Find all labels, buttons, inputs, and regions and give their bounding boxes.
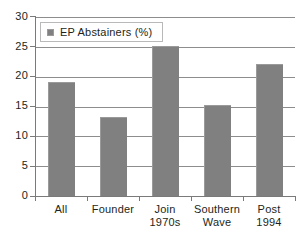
x-axis-tick-mark-5	[295, 196, 296, 201]
x-axis-line	[35, 196, 295, 197]
legend-swatch-ep-abstainers	[47, 29, 54, 36]
y-axis-tick-label-0: 0	[4, 190, 28, 201]
x-axis-label-founder-line1: Founder	[87, 203, 139, 216]
bar-southern-wave	[204, 105, 231, 196]
bar-founder	[100, 117, 127, 196]
x-axis-label-join-1970s-line2: 1970s	[139, 216, 191, 229]
y-axis-tick-label-15: 15	[4, 100, 28, 111]
x-axis-label-founder: Founder	[87, 203, 139, 216]
y-axis-tick-label-5: 5	[4, 160, 28, 171]
y-axis-tick-label-20: 20	[4, 70, 28, 81]
y-axis-line	[35, 16, 36, 197]
legend-label-ep-abstainers: EP Abstainers (%)	[60, 27, 152, 38]
x-axis-label-all-line1: All	[35, 203, 87, 216]
x-axis-label-join-1970s: Join 1970s	[139, 203, 191, 229]
x-axis-label-all: All	[35, 203, 87, 216]
bar-all	[48, 82, 75, 196]
bar-join-1970s	[152, 46, 179, 196]
legend: EP Abstainers (%)	[40, 22, 163, 42]
x-axis-label-post-1994-line2: 1994	[243, 216, 295, 229]
x-axis-label-join-1970s-line1: Join	[139, 203, 191, 216]
gridline-30	[35, 17, 295, 18]
bar-post-1994	[256, 64, 283, 196]
x-axis-tick-mark-3	[191, 196, 192, 201]
bar-chart: 30 25 20 15 10 5 0 All Foun	[0, 0, 303, 239]
plot-area	[35, 17, 295, 196]
x-axis-label-southern-wave: Southern Wave	[191, 203, 243, 229]
x-axis-label-southern-wave-line1: Southern	[191, 203, 243, 216]
x-axis-tick-mark-1	[87, 196, 88, 201]
x-axis-label-post-1994: Post 1994	[243, 203, 295, 229]
x-axis-label-southern-wave-line2: Wave	[191, 216, 243, 229]
x-axis-label-post-1994-line1: Post	[243, 203, 295, 216]
y-axis-tick-label-10: 10	[4, 130, 28, 141]
x-axis-tick-mark-4	[243, 196, 244, 201]
y-axis-tick-label-30: 30	[4, 11, 28, 22]
x-axis-tick-mark-2	[139, 196, 140, 201]
x-axis-tick-mark-0	[35, 196, 36, 201]
y-axis-tick-label-25: 25	[4, 41, 28, 52]
